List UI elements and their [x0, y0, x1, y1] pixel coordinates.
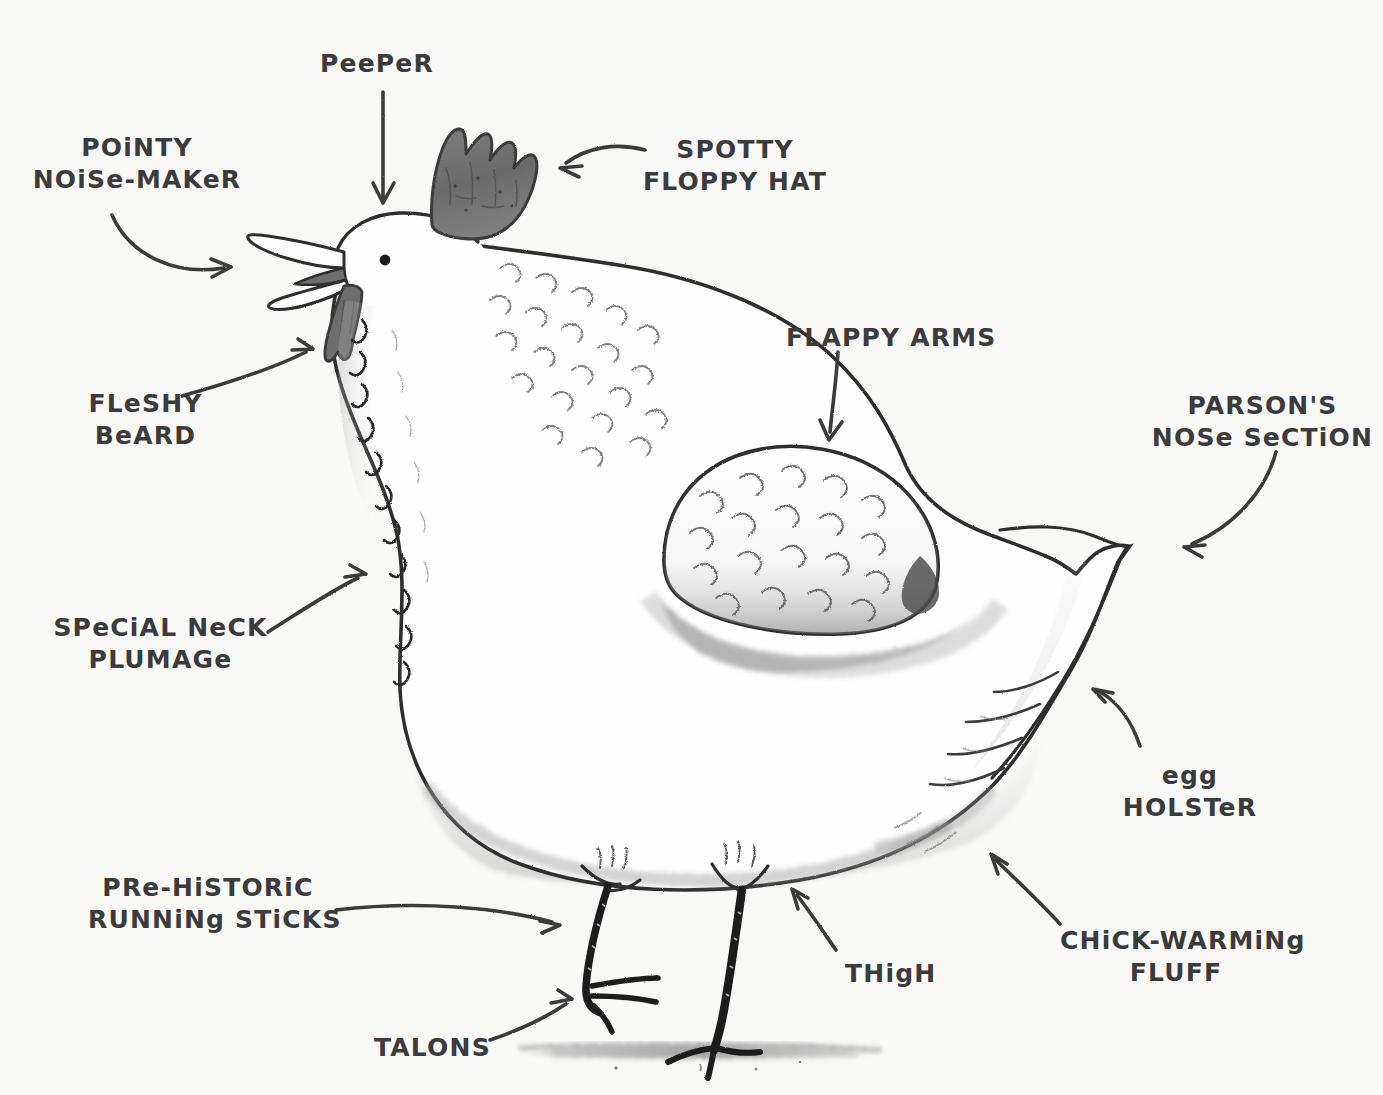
label-pointy-noise-maker-line-2: NOiSe-MAKeR [22, 164, 252, 196]
arrow-to-legs-head [540, 921, 560, 933]
arrow-to-talons-shaft [490, 1004, 566, 1040]
label-spotty-floppy-hat-line-1: SPOTTY [640, 134, 830, 166]
label-chick-warming-fluff-line-1: CHiCK-WARMiNg [1060, 925, 1292, 957]
label-egg-holster: eggHOLSTeR [1120, 760, 1260, 824]
arrow-to-tail-head [1184, 545, 1205, 557]
label-special-neck-plumage-line-2: PLUMAGe [48, 644, 273, 676]
arrow-to-beak [112, 215, 231, 277]
label-peeper-line-1: PeePeR [320, 48, 460, 80]
label-flappy-arms: FLAPPY ARMS [786, 322, 976, 354]
arrow-to-thigh [792, 889, 836, 950]
label-special-neck-plumage-line-1: SPeCiAL NeCK [48, 612, 273, 644]
label-fleshy-beard-line-2: BeARD [78, 420, 213, 452]
label-pointy-noise-maker: POiNTYNOiSe-MAKeR [22, 132, 252, 196]
arrow-to-neck-shaft [268, 578, 358, 632]
label-parsons-nose-section: PARSON'SNOSe SeCTiON [1150, 390, 1375, 454]
arrow-to-fluff-shaft [996, 860, 1060, 924]
arrow-to-neck-head [345, 565, 366, 577]
arrow-to-talons [490, 990, 572, 1040]
arrow-to-tail-shaft [1192, 452, 1276, 544]
label-thigh-line-1: THigH [845, 958, 945, 990]
label-flappy-arms-line-1: FLAPPY ARMS [786, 322, 976, 354]
label-talons: TALONS [374, 1032, 484, 1064]
label-pre-historic-running-sticks-line-1: PRe-HiSTORiC [88, 872, 328, 904]
arrow-to-legs [336, 906, 560, 933]
label-parsons-nose-section-line-1: PARSON'S [1150, 390, 1375, 422]
illustration-canvas: PeePeRPOiNTYNOiSe-MAKeRSPOTTYFLOPPY HATF… [0, 0, 1383, 1095]
arrow-to-fluff [991, 854, 1060, 924]
label-pre-historic-running-sticks-line-2: RUNNiNg STiCKS [88, 904, 328, 936]
arrow-to-wattle-head [292, 339, 313, 350]
label-thigh: THigH [845, 958, 945, 990]
arrow-to-legs-shaft [336, 906, 552, 922]
label-spotty-floppy-hat: SPOTTYFLOPPY HAT [640, 134, 830, 198]
label-peeper: PeePeR [320, 48, 460, 80]
arrow-to-comb-shaft [566, 146, 645, 163]
label-fleshy-beard-line-1: FLeSHY [78, 388, 213, 420]
label-chick-warming-fluff-line-2: FLUFF [1060, 957, 1292, 989]
label-pre-historic-running-sticks: PRe-HiSTORiCRUNNiNg STiCKS [88, 872, 328, 936]
arrow-to-vent-shaft [1100, 692, 1140, 746]
arrow-to-peeper [373, 92, 394, 203]
arrow-to-wing-shaft [830, 352, 838, 432]
arrow-to-vent [1093, 689, 1140, 746]
arrow-to-neck [268, 565, 366, 632]
arrow-to-comb [560, 146, 645, 177]
label-egg-holster-line-2: HOLSTeR [1120, 792, 1260, 824]
label-fleshy-beard: FLeSHYBeARD [78, 388, 213, 452]
arrow-to-talons-head [551, 990, 572, 1003]
label-egg-holster-line-1: egg [1120, 760, 1260, 792]
label-parsons-nose-section-line-2: NOSe SeCTiON [1150, 422, 1375, 454]
label-chick-warming-fluff: CHiCK-WARMiNgFLUFF [1060, 925, 1292, 989]
arrow-to-wing [820, 352, 842, 440]
arrow-to-comb-head [560, 166, 582, 177]
label-spotty-floppy-hat-line-2: FLOPPY HAT [640, 166, 830, 198]
label-pointy-noise-maker-line-1: POiNTY [22, 132, 252, 164]
label-talons-line-1: TALONS [374, 1032, 484, 1064]
arrow-to-thigh-shaft [797, 895, 836, 950]
arrow-to-tail [1184, 452, 1276, 557]
arrow-to-beak-shaft [112, 215, 224, 270]
label-special-neck-plumage: SPeCiAL NeCKPLUMAGe [48, 612, 273, 676]
